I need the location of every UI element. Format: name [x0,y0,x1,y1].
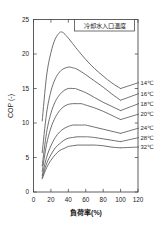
series-label-6: 28℃ [141,135,155,141]
x-tick-label: 120 [133,196,144,203]
x-tick-label: 20 [47,196,55,203]
x-tick-label: 100 [115,196,126,203]
plot-frame [34,20,139,193]
y-tick-label: 5 [25,154,29,161]
series-label-2: 16℃ [141,91,155,97]
axis-ticks [34,20,139,193]
series-label-1: 14℃ [141,80,155,86]
series-label-3: 18℃ [141,101,155,107]
x-tick-label: 0 [32,196,36,203]
series-curves [42,32,120,179]
legend-title-text: 冷却水入口温度 [84,22,126,30]
y-axis-title: COP (-) [7,94,15,118]
x-axis-tick-labels: 020406080100120 [32,196,144,203]
series-end-labels: 14℃16℃18℃20℃24℃28℃32℃ [121,80,154,151]
series-leader-line [121,114,139,120]
series-leader-line [121,83,139,89]
series-label-7: 32℃ [141,144,155,150]
y-tick-label: 25 [22,16,30,23]
x-tick-label: 60 [82,196,90,203]
chart-svg: 0510152025 020406080100120 COP (-) 負荷率(%… [0,0,161,232]
x-tick-label: 80 [100,196,108,203]
series-leader-line [121,128,139,133]
y-axis-tick-labels: 0510152025 [22,16,30,196]
series-curve [42,88,120,165]
series-curve [42,104,120,172]
series-leader-line [121,138,139,142]
cop-load-factor-chart: 0510152025 020406080100120 COP (-) 負荷率(%… [0,0,161,232]
y-tick-label: 10 [22,119,30,126]
y-tick-label: 0 [25,188,29,195]
series-label-4: 20℃ [141,111,155,117]
series-leader-line [121,104,139,111]
series-leader-line [121,147,139,148]
x-axis-title: 負荷率(%) [70,208,102,217]
legend-title-box: 冷却水入口温度 [75,20,135,32]
series-leader-line [121,94,139,101]
series-label-5: 24℃ [141,125,155,131]
x-tick-label: 40 [65,196,73,203]
y-tick-label: 20 [22,50,30,57]
y-tick-label: 15 [22,85,30,92]
series-curve [42,137,120,178]
series-curve [42,32,120,121]
